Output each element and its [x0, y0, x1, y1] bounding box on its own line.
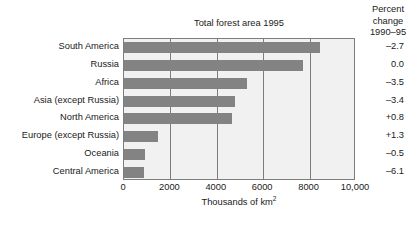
chart-title: Total forest area 1995	[123, 18, 355, 28]
bar	[124, 60, 303, 71]
x-tick-label: 6000	[252, 182, 273, 192]
bar-row	[124, 92, 354, 110]
category-axis-labels: South AmericaRussiaAfricaAsia (except Ru…	[0, 38, 119, 180]
percent-change-header-line-1: Percent	[358, 4, 418, 16]
bar-row	[124, 146, 354, 164]
category-label: Central America	[0, 166, 119, 177]
percent-change-value: 0.0	[358, 59, 404, 70]
bar	[124, 78, 247, 89]
percent-change-header-line-2: change	[358, 16, 418, 28]
forest-area-chart-figure: Percent change 1990–95 Total forest area…	[0, 0, 420, 227]
category-label: Asia (except Russia)	[0, 95, 119, 106]
bar-row	[124, 110, 354, 128]
x-tick-label: 8000	[298, 182, 319, 192]
x-axis-label: Thousands of km2	[123, 197, 355, 207]
category-label: South America	[0, 41, 119, 52]
category-label: North America	[0, 112, 119, 123]
bar-row	[124, 163, 354, 181]
x-axis-label-superscript: 2	[273, 195, 277, 202]
bar-series	[124, 39, 354, 179]
x-axis-label-text: Thousands of km	[202, 197, 273, 207]
bar	[124, 42, 320, 53]
category-label: Africa	[0, 77, 119, 88]
bar	[124, 131, 158, 142]
percent-change-value: +0.8	[358, 112, 404, 123]
bar	[124, 149, 145, 160]
x-tick-label: 10,000	[341, 182, 369, 192]
category-label: Oceania	[0, 148, 119, 159]
x-tick-label: 4000	[205, 182, 226, 192]
bar-row	[124, 128, 354, 146]
percent-change-value: –2.7	[358, 41, 404, 52]
bar	[124, 96, 235, 107]
bar-row	[124, 75, 354, 93]
bar-row	[124, 57, 354, 75]
percent-change-column-header: Percent change 1990–95	[358, 4, 418, 39]
percent-change-values: –2.70.0–3.5–3.4+0.8+1.3–0.5–6.1	[358, 38, 414, 180]
category-label: Europe (except Russia)	[0, 130, 119, 141]
bar	[124, 167, 144, 178]
percent-change-value: +1.3	[358, 130, 404, 141]
category-label: Russia	[0, 59, 119, 70]
x-tick-label: 0	[120, 182, 125, 192]
percent-change-value: –3.5	[358, 77, 404, 88]
bar-row	[124, 39, 354, 57]
percent-change-value: –0.5	[358, 148, 404, 159]
bar	[124, 113, 232, 124]
percent-change-value: –3.4	[358, 95, 404, 106]
percent-change-value: –6.1	[358, 166, 404, 177]
x-tick-label: 2000	[159, 182, 180, 192]
x-axis-tick-labels: 0200040006000800010,000	[123, 182, 355, 196]
plot-area	[123, 38, 355, 180]
